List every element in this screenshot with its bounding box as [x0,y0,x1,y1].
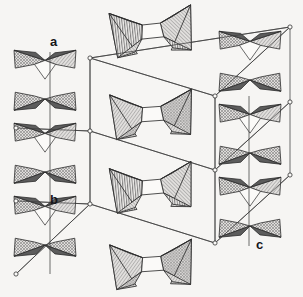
axis-label-b: b [50,192,58,207]
shared-void-face [141,256,164,272]
unit-cell-vertex [288,25,292,29]
axis-label-a: a [50,34,58,49]
shared-void-face [141,106,164,122]
shared-void-face [140,23,163,39]
structure-canvas: a b c [0,0,303,297]
unit-cell-vertex [288,173,292,177]
unit-cell-vertex [213,94,217,98]
unit-cell-vertex [14,126,18,130]
unit-cell-vertex [88,56,92,60]
unit-cell-vertex [88,129,92,133]
unit-cell-vertex [14,199,18,203]
unit-cell-vertex [14,272,18,276]
unit-cell-vertex [213,168,217,172]
unit-cell-vertex [288,100,292,104]
unit-cell-vertex [213,241,217,245]
axis-label-c: c [256,237,263,252]
shared-void-face [141,179,164,195]
unit-cell-vertex [88,202,92,206]
crystal-structure-figure: a b c [0,0,303,297]
